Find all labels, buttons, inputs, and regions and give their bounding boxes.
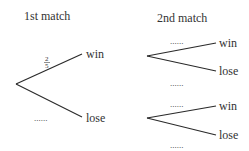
branch-first-lose	[16, 84, 82, 117]
second-stage-after-lose: win lose ...... ......	[147, 99, 238, 150]
blank-first-lose-prob: ......	[34, 113, 48, 123]
blank-second-win-prob-top: ......	[170, 36, 184, 46]
label-second-win-top: win	[219, 36, 237, 50]
second-stage-after-win: win lose ...... ......	[147, 36, 238, 88]
blank-second-lose-prob-top: ......	[170, 78, 184, 88]
probability-tree-diagram: 1st match 2nd match win lose 2 5 ...... …	[0, 0, 249, 151]
first-stage: win lose 2 5 ......	[16, 47, 105, 125]
branch-second-lose-top	[147, 56, 216, 71]
label-first-win: win	[86, 47, 104, 61]
fraction-win-prob: 2 5	[44, 55, 50, 70]
fraction-denominator: 5	[45, 62, 49, 70]
label-second-lose-bottom: lose	[219, 128, 238, 142]
branch-first-win	[16, 54, 82, 84]
blank-second-win-prob-bottom: ......	[170, 99, 184, 109]
label-second-lose-top: lose	[219, 64, 238, 78]
label-second-win-bottom: win	[219, 99, 237, 113]
branch-second-lose-bottom	[147, 118, 216, 135]
header-first-match: 1st match	[24, 9, 70, 23]
header-second-match: 2nd match	[157, 11, 207, 25]
label-first-lose: lose	[86, 111, 105, 125]
blank-second-lose-prob-bottom: ......	[170, 140, 184, 150]
